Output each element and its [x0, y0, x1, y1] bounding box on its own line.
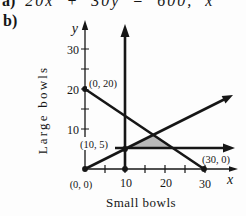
y-tick-10: 10 — [67, 123, 79, 137]
x-tick-20: 20 — [160, 176, 172, 190]
point-10-5 — [122, 146, 128, 152]
line-20x-30y-600 — [85, 89, 204, 169]
point-0-0 — [82, 166, 88, 172]
line-x10-arrow-icon — [121, 24, 130, 37]
line-y5-arrow-icon — [223, 144, 235, 153]
x-axis-variable-label: x — [226, 172, 234, 187]
x-axis-title: Small bowls — [106, 195, 176, 210]
x-tick-10: 10 — [120, 176, 132, 190]
point-30-0 — [201, 166, 207, 172]
y-tick-20: 20 — [67, 83, 79, 97]
point-label-0-20: (0, 20) — [89, 78, 117, 90]
y-tick-30: 30 — [67, 43, 79, 57]
x-axis-arrow-icon — [229, 166, 238, 172]
point-10-0 — [122, 166, 128, 172]
line-halfx-arrow-icon — [222, 95, 233, 104]
y-axis-variable-label: y — [70, 21, 79, 36]
feasible-region-graph: y x Large bowls Small bowls 30 20 10 10 … — [0, 0, 246, 216]
y-axis-title: Large bowls — [35, 66, 50, 155]
point-label-origin: (0, 0) — [70, 179, 93, 191]
y-axis-arrow-icon — [82, 20, 88, 30]
point-label-30-0: (30, 0) — [202, 154, 230, 166]
x-tick-30: 30 — [199, 177, 211, 191]
point-label-10-5: (10, 5) — [80, 139, 108, 151]
